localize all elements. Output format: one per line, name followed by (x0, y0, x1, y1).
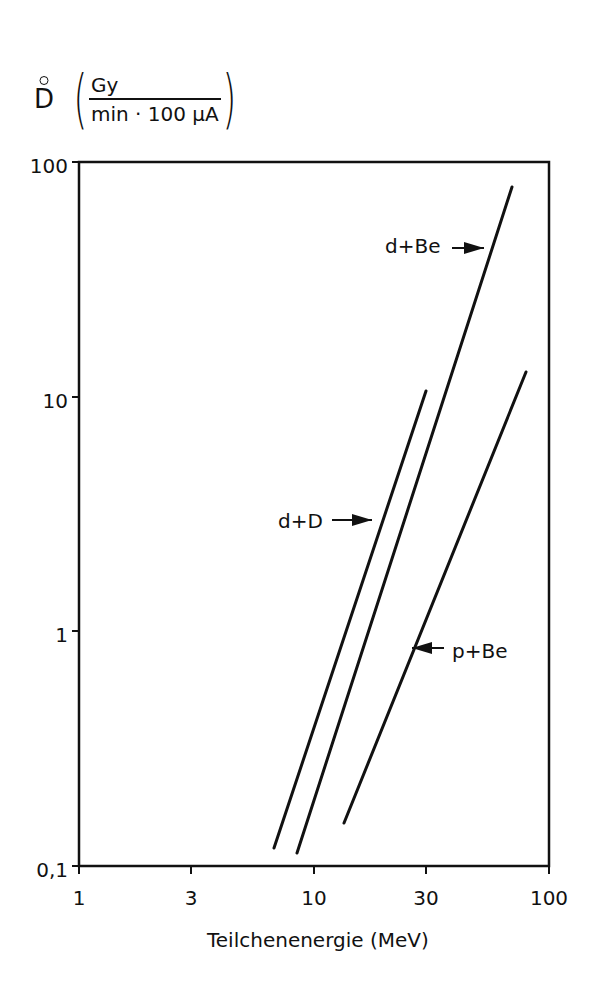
series-line-d-d (274, 391, 426, 848)
annotation-d-d: d+D (278, 509, 323, 533)
y-tick-label-0-1: 0,1 (36, 858, 68, 882)
x-tick-label-1: 1 (73, 886, 86, 910)
series-line-d-be (297, 187, 512, 853)
x-axis-title: Teilchenenergie (MeV) (207, 928, 429, 952)
series-line-p-be (344, 372, 526, 823)
x-tick-label-100: 100 (530, 886, 568, 910)
x-tick-label-3: 3 (185, 886, 198, 910)
y-tick-label-100: 100 (30, 154, 68, 178)
y-tick-label-1: 1 (55, 623, 68, 647)
x-tick-label-10: 10 (301, 886, 326, 910)
x-tick-label-30: 30 (413, 886, 438, 910)
annotation-d-be: d+Be (385, 234, 440, 258)
annotation-p-be: p+Be (452, 639, 507, 663)
plot-canvas: 100 10 1 0,1 1 3 10 30 100 d+Be d+D p+Be (0, 0, 595, 994)
y-tick-label-10: 10 (43, 389, 68, 413)
